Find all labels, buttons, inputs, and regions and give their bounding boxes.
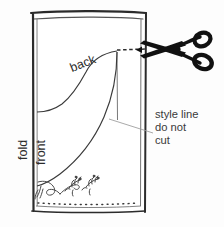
note-line-3: cut bbox=[155, 134, 199, 147]
style-line-note: style line do not cut bbox=[155, 108, 199, 148]
label-front: front bbox=[34, 140, 49, 165]
fabric-top-edge-outer bbox=[31, 11, 146, 13]
scissors-icon[interactable] bbox=[136, 30, 214, 72]
left-fold-edge bbox=[33, 14, 34, 211]
note-line-2: do not bbox=[155, 121, 199, 134]
fabric-bottom-edge bbox=[32, 211, 145, 213]
note-line-1: style line bbox=[155, 108, 199, 121]
label-fold: fold bbox=[16, 140, 31, 160]
right-edge-inner bbox=[141, 19, 142, 206]
diagram-canvas: back fold front style line do not cut bbox=[0, 0, 224, 227]
